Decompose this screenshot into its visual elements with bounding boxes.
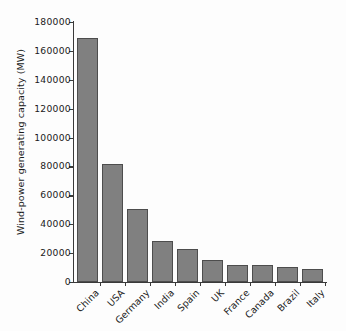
bar <box>302 269 323 282</box>
x-tick-label: Spain <box>175 287 202 314</box>
x-tick-mark <box>125 282 126 286</box>
x-tick-label: UK <box>209 287 226 304</box>
x-tick-mark <box>100 282 101 286</box>
bar <box>227 265 248 282</box>
x-tick-label: USA <box>105 287 127 309</box>
bar <box>127 209 148 282</box>
x-tick-mark <box>250 282 251 286</box>
y-axis-label: Wind-power generating capacity (MW) <box>14 12 28 272</box>
x-tick-mark <box>300 282 301 286</box>
y-tick-label: 180000 <box>34 16 71 27</box>
y-tick-label: 160000 <box>34 45 71 56</box>
bar <box>252 265 273 282</box>
x-tick-mark <box>325 282 326 286</box>
bar <box>77 38 98 282</box>
x-tick-label: India <box>152 287 176 311</box>
y-tick-label: 0 <box>65 276 71 287</box>
bar <box>102 164 123 282</box>
y-tick-label: 40000 <box>40 218 71 229</box>
y-tick-label: 100000 <box>34 132 71 143</box>
y-tick-label: 20000 <box>40 247 71 258</box>
y-tick-label: 140000 <box>34 74 71 85</box>
y-tick-label: 120000 <box>34 103 71 114</box>
x-tick-label: China <box>74 287 101 314</box>
y-tick-label: 60000 <box>40 189 71 200</box>
plot-area: 0200004000060000800001000001200001400001… <box>74 22 326 282</box>
x-tick-mark <box>175 282 176 286</box>
x-tick-label: Brazil <box>275 287 302 314</box>
bar <box>202 260 223 282</box>
bar <box>277 267 298 282</box>
x-tick-mark <box>150 282 151 286</box>
y-tick-label: 80000 <box>40 160 71 171</box>
bar-chart-figure: Wind-power generating capacity (MW) 0200… <box>0 0 346 331</box>
x-tick-label: Italy <box>304 287 327 310</box>
x-tick-mark <box>200 282 201 286</box>
bar <box>177 249 198 282</box>
x-tick-mark <box>225 282 226 286</box>
x-tick-mark <box>275 282 276 286</box>
bar <box>152 241 173 282</box>
